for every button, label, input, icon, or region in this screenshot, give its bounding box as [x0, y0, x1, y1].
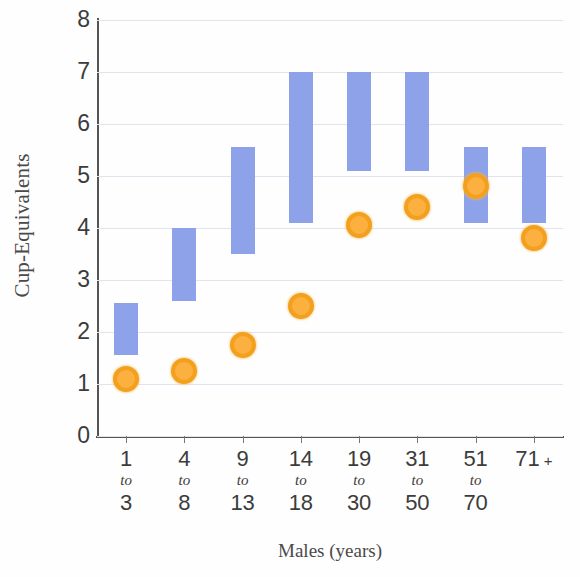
y-axis-tick-label: 8	[60, 8, 90, 31]
range-bar	[172, 228, 196, 301]
x-axis-tick-label-word: to	[214, 471, 272, 490]
x-axis-tick-label-from: 31	[388, 446, 446, 471]
range-bar	[347, 72, 371, 171]
y-axis-tick-label: 0	[60, 424, 90, 447]
x-axis-tick-label-word: to	[272, 471, 330, 490]
x-axis-tick-label-word: to	[330, 471, 388, 490]
range-bar	[114, 303, 138, 355]
x-axis-tick-mark	[243, 436, 244, 443]
x-axis-tick-label-word: to	[155, 471, 213, 490]
range-bar	[522, 147, 546, 222]
x-axis-tick-label-to: 70	[447, 490, 505, 515]
range-bar	[289, 72, 313, 223]
y-axis-title-text: Cup-Equivalents	[10, 153, 35, 297]
x-axis-tick-label-to: 18	[272, 490, 330, 515]
x-axis-tick-label: 14to18	[272, 446, 330, 515]
chart-container: Cup-Equivalents 876543210 1to34to89to131…	[0, 0, 580, 577]
x-axis-tick-mark	[476, 436, 477, 443]
y-axis-tick-label: 1	[60, 372, 90, 395]
y-axis-tick-labels: 876543210	[50, 0, 90, 450]
data-point-marker	[113, 366, 139, 392]
x-axis-tick-label-from: 14	[272, 446, 330, 471]
plot-area	[97, 20, 563, 436]
x-axis-tick-label-from: 1	[97, 446, 155, 471]
x-axis-tick-mark	[301, 436, 302, 443]
x-axis-tick-labels: 1to34to89to1314to1819to3031to5051to7071 …	[97, 446, 563, 536]
y-axis-tick-label: 2	[60, 320, 90, 343]
x-axis-tick-label: 1to3	[97, 446, 155, 515]
x-axis-tick-label-to: 50	[388, 490, 446, 515]
x-axis-tick-mark	[126, 436, 127, 443]
x-axis-tick-label-from: 4	[155, 446, 213, 471]
x-axis-tick-label-to: 8	[155, 490, 213, 515]
x-axis-tick-label-word: to	[388, 471, 446, 490]
x-axis-tick-label: 9to13	[214, 446, 272, 515]
x-axis-tick-label-text: 71 +	[505, 446, 563, 473]
y-axis-tick-label: 4	[60, 216, 90, 239]
x-axis-tick-label: 4to8	[155, 446, 213, 515]
x-axis-title: Males (years)	[97, 540, 563, 562]
x-axis-tick-label-word: to	[447, 471, 505, 490]
data-point-marker	[346, 212, 372, 238]
gridline	[97, 332, 563, 333]
x-axis-tick-label: 71 +	[505, 446, 563, 473]
y-axis-tick-label: 3	[60, 268, 90, 291]
x-axis-tick-label: 19to30	[330, 446, 388, 515]
data-point-marker	[230, 332, 256, 358]
x-axis-tick-mark	[184, 436, 185, 443]
x-axis-tick-label-word: to	[97, 471, 155, 490]
y-axis-tick-label: 6	[60, 112, 90, 135]
x-axis-tick-mark	[417, 436, 418, 443]
x-axis-tick-label: 31to50	[388, 446, 446, 515]
x-axis-tick-label-to: 13	[214, 490, 272, 515]
y-axis-tick-label: 7	[60, 60, 90, 83]
x-axis-tick-label-to: 3	[97, 490, 155, 515]
gridline	[97, 72, 563, 73]
x-axis-tick-mark	[359, 436, 360, 443]
gridline	[97, 228, 563, 229]
gridline	[97, 20, 563, 21]
x-axis-tick-label-from: 19	[330, 446, 388, 471]
data-point-marker	[463, 173, 489, 199]
data-point-marker	[404, 194, 430, 220]
x-axis-tick-label-to: 30	[330, 490, 388, 515]
gridline	[97, 176, 563, 177]
gridline	[97, 384, 563, 385]
gridline	[97, 280, 563, 281]
gridline	[97, 436, 563, 437]
range-bar	[231, 147, 255, 254]
y-axis-tick-label: 5	[60, 164, 90, 187]
x-axis-tick-label-from: 9	[214, 446, 272, 471]
x-axis-tick-mark	[534, 436, 535, 443]
range-bar	[405, 72, 429, 171]
y-axis-title: Cup-Equivalents	[0, 0, 44, 450]
data-point-marker	[288, 293, 314, 319]
x-axis-tick-label-from: 51	[447, 446, 505, 471]
data-point-marker	[521, 225, 547, 251]
x-axis-tick-label: 51to70	[447, 446, 505, 515]
gridline	[97, 124, 563, 125]
data-point-marker	[171, 358, 197, 384]
